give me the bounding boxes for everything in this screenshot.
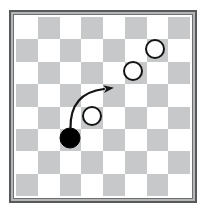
board-cell-0-4 <box>103 17 125 39</box>
board-cell-2-3 <box>81 62 103 84</box>
board-cell-2-0 <box>16 62 38 84</box>
board-cell-6-6 <box>147 151 169 173</box>
board-cell-6-5 <box>125 151 147 173</box>
board-cell-7-5 <box>125 174 147 196</box>
board-cell-3-1 <box>38 84 60 106</box>
board-cell-3-6 <box>147 84 169 106</box>
board-cell-1-4 <box>103 39 125 61</box>
board-cell-4-6 <box>147 107 169 129</box>
board-cell-7-6 <box>147 174 169 196</box>
board-cell-3-5 <box>125 84 147 106</box>
board-frame-outer <box>9 10 197 203</box>
board-cell-5-3 <box>81 129 103 151</box>
board-cell-4-1 <box>38 107 60 129</box>
black-piece <box>60 128 81 149</box>
board-cell-4-0 <box>16 107 38 129</box>
board-cell-7-3 <box>81 174 103 196</box>
board-cell-3-7 <box>168 84 190 106</box>
board-cell-4-5 <box>125 107 147 129</box>
board-cell-6-4 <box>103 151 125 173</box>
board-cell-7-0 <box>16 174 38 196</box>
board-cell-5-0 <box>16 129 38 151</box>
board-cell-7-7 <box>168 174 190 196</box>
board-cell-1-3 <box>81 39 103 61</box>
checkerboard <box>16 17 190 196</box>
board-cell-3-0 <box>16 84 38 106</box>
board-cell-0-7 <box>168 17 190 39</box>
board-cell-1-1 <box>38 39 60 61</box>
board-cell-6-3 <box>81 151 103 173</box>
board-cell-5-4 <box>103 129 125 151</box>
board-frame-mid <box>11 12 195 201</box>
board-cell-0-2 <box>60 17 82 39</box>
board-cell-7-2 <box>60 174 82 196</box>
board-cell-7-4 <box>103 174 125 196</box>
board-cell-4-4 <box>103 107 125 129</box>
board-cell-0-6 <box>147 17 169 39</box>
board-cell-6-2 <box>60 151 82 173</box>
white-piece <box>145 39 165 59</box>
board-cell-3-2 <box>60 84 82 106</box>
white-piece <box>82 106 102 126</box>
board-cell-1-2 <box>60 39 82 61</box>
board-cell-2-7 <box>168 62 190 84</box>
board-cell-3-4 <box>103 84 125 106</box>
white-piece <box>123 61 143 81</box>
board-cell-5-5 <box>125 129 147 151</box>
checkers-diagram <box>0 0 205 211</box>
board-cell-4-2 <box>60 107 82 129</box>
board-cell-7-1 <box>38 174 60 196</box>
board-cell-4-7 <box>168 107 190 129</box>
board-cell-5-7 <box>168 129 190 151</box>
board-cell-2-6 <box>147 62 169 84</box>
board-cell-2-1 <box>38 62 60 84</box>
board-cell-6-7 <box>168 151 190 173</box>
board-cell-1-0 <box>16 39 38 61</box>
board-cell-1-7 <box>168 39 190 61</box>
board-cell-0-3 <box>81 17 103 39</box>
board-cell-6-0 <box>16 151 38 173</box>
board-cell-0-1 <box>38 17 60 39</box>
board-frame-inner <box>13 14 193 199</box>
board-cell-2-2 <box>60 62 82 84</box>
board-cell-5-1 <box>38 129 60 151</box>
board-cell-0-0 <box>16 17 38 39</box>
board-cell-6-1 <box>38 151 60 173</box>
board-cell-0-5 <box>125 17 147 39</box>
board-cell-2-4 <box>103 62 125 84</box>
board-cell-1-5 <box>125 39 147 61</box>
board-cell-3-3 <box>81 84 103 106</box>
board-cell-5-6 <box>147 129 169 151</box>
